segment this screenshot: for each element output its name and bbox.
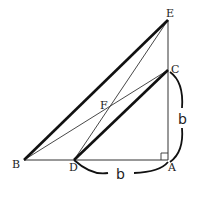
label-E: E [166, 7, 174, 20]
label-F: F [100, 99, 108, 112]
measure-AC-label: b [178, 111, 187, 127]
label-A: A [167, 161, 177, 174]
brace-AC-top [170, 72, 182, 108]
label-C: C [171, 63, 179, 76]
right-angle-marker [161, 153, 168, 160]
geometry-diagram: E C F B D A b b [0, 0, 198, 197]
label-B: B [12, 158, 20, 171]
brace-AC-bottom [170, 128, 182, 162]
label-D: D [69, 161, 78, 174]
brace-DA-right [134, 162, 168, 173]
measure-DA-label: b [116, 166, 125, 182]
brace-DA [74, 160, 108, 173]
segment-BC [24, 70, 168, 160]
segment-DE [74, 20, 168, 160]
segment-DC [74, 70, 168, 160]
